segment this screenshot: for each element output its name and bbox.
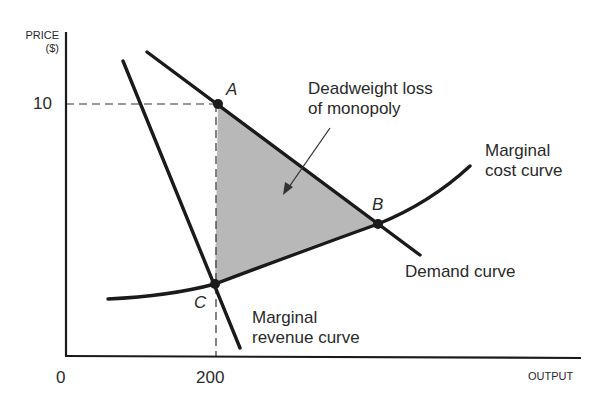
deadweight-loss-label: Deadweight loss of monopoly (308, 79, 433, 118)
x-tick-200: 200 (196, 368, 224, 388)
point-b-marker (373, 219, 383, 229)
point-b-label: B (372, 195, 383, 215)
mc-label-line1: Marginal (485, 141, 562, 161)
x-axis (65, 356, 581, 358)
y-axis-label-line1: PRICE (19, 29, 59, 42)
y-tick-10: 10 (33, 94, 52, 114)
point-c-marker (210, 279, 220, 289)
point-c-label: C (194, 293, 206, 313)
marginal-cost-label: Marginal cost curve (485, 141, 562, 180)
point-a-marker (213, 99, 223, 109)
y-axis-label-line2: ($) (19, 42, 59, 55)
deadweight-loss-region (215, 104, 378, 284)
marginal-revenue-label: Marginal revenue curve (252, 308, 360, 347)
point-a-label: A (226, 80, 237, 100)
dwl-label-line2: of monopoly (308, 99, 433, 119)
origin-label: 0 (56, 368, 65, 388)
demand-curve-label: Demand curve (405, 262, 516, 282)
dwl-label-line1: Deadweight loss (308, 79, 433, 99)
mc-label-line2: cost curve (485, 161, 562, 181)
x-axis-label: OUTPUT (528, 370, 573, 383)
mr-label-line2: revenue curve (252, 328, 360, 348)
mr-label-line1: Marginal (252, 308, 360, 328)
y-axis-label: PRICE ($) (19, 29, 59, 54)
